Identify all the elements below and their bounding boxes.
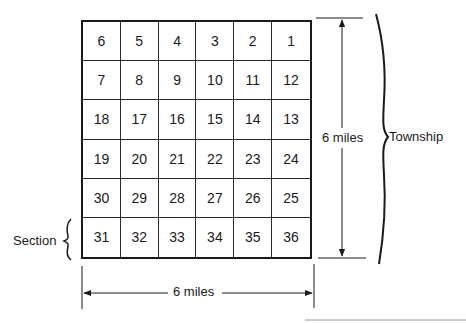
section-cell: 8 [121, 61, 159, 100]
section-cell: 34 [196, 218, 234, 257]
section-cell: 10 [196, 61, 234, 100]
section-cell: 17 [121, 100, 159, 139]
section-cell: 16 [159, 100, 197, 139]
section-cell: 28 [159, 179, 197, 218]
section-label: Section [13, 233, 56, 248]
section-cell: 30 [83, 179, 121, 218]
section-cell: 9 [159, 61, 197, 100]
section-cell: 33 [159, 218, 197, 257]
section-cell: 12 [272, 61, 310, 100]
section-cell: 19 [83, 140, 121, 179]
section-cell: 36 [272, 218, 310, 257]
section-cell: 23 [234, 140, 272, 179]
section-cell: 26 [234, 179, 272, 218]
section-cell: 18 [83, 100, 121, 139]
vertical-dimension-label: 6 miles [322, 128, 363, 147]
horizontal-dimension-label: 6 miles [170, 284, 217, 299]
section-cell: 22 [196, 140, 234, 179]
section-cell: 1 [272, 22, 310, 61]
township-label: Township [389, 129, 443, 144]
section-brace [64, 219, 71, 260]
section-cell: 24 [272, 140, 310, 179]
township-diagram: 6 5 4 3 2 1 7 8 9 10 11 12 18 17 16 15 1… [0, 0, 466, 323]
section-cell: 20 [121, 140, 159, 179]
section-cell: 7 [83, 61, 121, 100]
section-cell: 3 [196, 22, 234, 61]
section-cell: 15 [196, 100, 234, 139]
section-cell: 21 [159, 140, 197, 179]
section-cell: 27 [196, 179, 234, 218]
section-cell: 11 [234, 61, 272, 100]
township-section-grid: 6 5 4 3 2 1 7 8 9 10 11 12 18 17 16 15 1… [81, 20, 312, 259]
section-cell: 5 [121, 22, 159, 61]
section-cell: 25 [272, 179, 310, 218]
section-cell: 32 [121, 218, 159, 257]
section-cell: 6 [83, 22, 121, 61]
section-cell: 2 [234, 22, 272, 61]
section-cell: 13 [272, 100, 310, 139]
section-cell: 14 [234, 100, 272, 139]
section-cell: 35 [234, 218, 272, 257]
township-brace [376, 14, 388, 264]
section-cell: 29 [121, 179, 159, 218]
section-cell: 4 [159, 22, 197, 61]
section-cell: 31 [83, 218, 121, 257]
